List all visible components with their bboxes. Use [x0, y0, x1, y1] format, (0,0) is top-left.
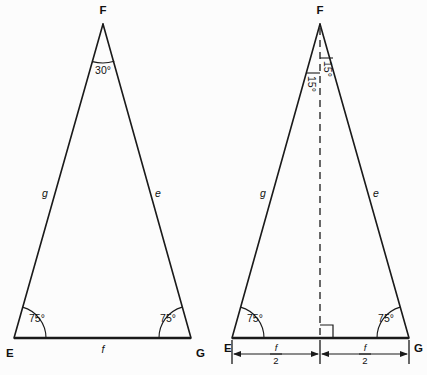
triangle-left-bottom-left-angle-label: 75° — [29, 312, 45, 324]
triangle-left-side-e — [103, 24, 191, 338]
dimension-left-numerator: f — [275, 342, 279, 353]
dimension-right-arrow-start — [321, 351, 329, 357]
triangle-left-apex-angle-label: 30° — [95, 64, 111, 76]
dimension-left-denominator: 2 — [273, 355, 278, 366]
triangle-left-side-label-e: e — [155, 187, 161, 199]
dimension-right-numerator: f — [364, 342, 368, 353]
triangle-right-apex-left-angle-label: 15° — [306, 76, 318, 92]
dimension-right-arrow-end — [400, 351, 408, 357]
dimension-left-half: f 2 — [232, 340, 320, 366]
triangle-right-side-label-e: e — [373, 187, 379, 199]
triangle-left-base-label-f: f — [102, 343, 106, 355]
triangle-left-vertex-label-f: F — [99, 4, 106, 16]
triangle-right-vertex-label-e: E — [224, 342, 232, 354]
triangle-right: F E G 15° 15° 75° 75° g e — [224, 4, 423, 366]
triangle-left: F E G 30° 75° 75° g e f — [6, 4, 205, 359]
triangle-left-apex-angle-arc — [92, 61, 114, 63]
dimension-left-arrow-start — [233, 351, 241, 357]
geometry-figure: F E G 30° 75° 75° g e f — [0, 0, 427, 375]
triangle-right-vertex-label-f: F — [316, 4, 323, 16]
triangle-left-vertex-label-e: E — [6, 347, 14, 359]
triangle-left-side-label-g: g — [42, 187, 48, 199]
dimension-right-denominator: 2 — [362, 355, 367, 366]
triangle-right-side-g — [232, 24, 320, 338]
triangle-right-side-label-g: g — [260, 187, 266, 199]
triangle-right-right-angle-marker — [320, 325, 333, 338]
triangle-left-vertex-label-g: G — [196, 347, 205, 359]
triangles-diagram: F E G 30° 75° 75° g e f — [0, 0, 427, 375]
triangle-right-apex-right-angle-label: 15° — [322, 61, 334, 77]
dimension-right-half: f 2 — [321, 340, 409, 366]
triangle-right-bottom-right-angle-label: 75° — [378, 312, 394, 324]
triangle-right-bottom-left-angle-label: 75° — [247, 312, 263, 324]
triangle-right-vertex-label-g: G — [414, 342, 423, 354]
dimension-left-arrow-end — [311, 351, 319, 357]
triangle-left-side-g — [14, 24, 103, 338]
triangle-left-bottom-right-angle-label: 75° — [160, 312, 176, 324]
